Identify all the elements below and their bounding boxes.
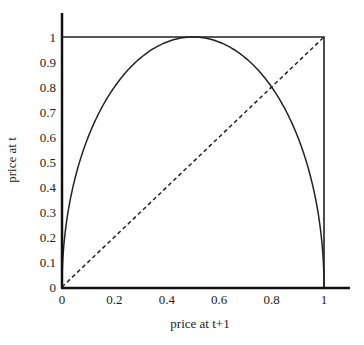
y-tick-label: 0.3: [40, 205, 56, 220]
series-unit-box: [62, 37, 324, 287]
x-axis-label: price at t+1: [170, 316, 229, 331]
y-tick-label: 0: [50, 280, 57, 295]
y-tick-label: 0.1: [40, 255, 56, 270]
y-tick-label: 0.7: [40, 105, 57, 120]
x-tick-label: 0.4: [159, 292, 176, 307]
y-tick-label: 1: [50, 30, 57, 45]
x-tick-label: 1: [321, 292, 328, 307]
chart-marks: [62, 37, 324, 287]
x-tick-label: 0.2: [106, 292, 122, 307]
series-map-curve: [62, 37, 324, 287]
y-tick-label: 0.9: [40, 55, 56, 70]
y-tick-label: 0.8: [40, 80, 56, 95]
x-tick-label: 0.6: [211, 292, 228, 307]
y-tick-label: 0.2: [40, 230, 56, 245]
x-tick-label: 0: [59, 292, 66, 307]
x-tick-label: 0.8: [263, 292, 279, 307]
y-tick-labels: 00.10.20.30.40.50.60.70.80.91: [40, 30, 57, 295]
series-45-degree-line: [62, 37, 324, 287]
y-tick-label: 0.4: [40, 180, 57, 195]
y-tick-label: 0.6: [40, 130, 57, 145]
chart: 00.10.20.30.40.50.60.70.80.91 00.20.40.6…: [0, 0, 364, 345]
y-tick-label: 0.5: [40, 155, 56, 170]
x-tick-labels: 00.20.40.60.81: [59, 292, 328, 307]
y-axis-label: price at t: [4, 137, 19, 183]
